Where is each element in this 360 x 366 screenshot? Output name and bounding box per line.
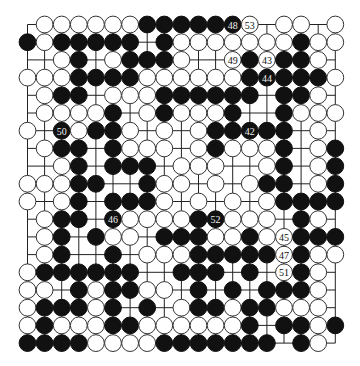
white-stone	[105, 16, 122, 33]
black-stone	[105, 105, 122, 122]
black-stone	[293, 229, 310, 246]
white-stone	[19, 282, 36, 299]
white-stone	[224, 317, 241, 334]
white-stone	[36, 16, 53, 33]
white-stone	[224, 211, 241, 228]
white-stone	[156, 211, 173, 228]
white-stone	[241, 211, 258, 228]
black-stone	[293, 282, 310, 299]
black-stone	[19, 335, 36, 352]
move-number: 52	[211, 214, 221, 225]
white-stone	[139, 246, 156, 263]
white-stone	[293, 105, 310, 122]
black-stone	[173, 87, 190, 104]
black-stone	[36, 335, 53, 352]
black-stone	[259, 335, 276, 352]
black-stone	[190, 16, 207, 33]
white-stone	[156, 317, 173, 334]
white-stone	[53, 16, 70, 33]
white-stone	[19, 175, 36, 192]
white-stone	[36, 211, 53, 228]
white-stone	[327, 16, 344, 33]
black-stone	[276, 140, 293, 157]
white-stone	[276, 299, 293, 316]
white-stone	[36, 34, 53, 51]
white-stone	[259, 34, 276, 51]
white-stone	[327, 105, 344, 122]
black-stone	[276, 87, 293, 104]
black-stone	[310, 229, 327, 246]
white-stone	[36, 282, 53, 299]
black-stone	[105, 122, 122, 139]
go-board[interactable]: 485349434450424652454751	[0, 0, 360, 366]
black-stone	[241, 229, 258, 246]
black-stone	[327, 175, 344, 192]
black-stone	[207, 299, 224, 316]
black-stone	[293, 264, 310, 281]
black-stone	[139, 52, 156, 69]
black-stone	[207, 264, 224, 281]
white-stone	[36, 175, 53, 192]
black-stone	[53, 87, 70, 104]
white-stone	[224, 299, 241, 316]
black-stone	[105, 193, 122, 210]
white-stone	[207, 158, 224, 175]
black-stone	[88, 69, 105, 86]
black-stone	[105, 246, 122, 263]
black-stone	[105, 264, 122, 281]
white-stone	[122, 229, 139, 246]
move-number: 45	[279, 232, 289, 243]
move-number: 53	[245, 20, 255, 31]
black-stone	[70, 158, 87, 175]
white-stone	[207, 34, 224, 51]
black-stone	[105, 282, 122, 299]
black-stone	[276, 158, 293, 175]
white-stone	[122, 16, 139, 33]
black-stone	[293, 211, 310, 228]
black-stone	[327, 140, 344, 157]
black-stone	[53, 229, 70, 246]
white-stone	[139, 317, 156, 334]
black-stone	[122, 193, 139, 210]
white-stone	[139, 105, 156, 122]
white-stone	[88, 317, 105, 334]
white-stone	[70, 105, 87, 122]
white-stone	[207, 69, 224, 86]
white-stone	[310, 317, 327, 334]
white-stone	[70, 122, 87, 139]
white-stone	[293, 299, 310, 316]
white-stone	[190, 34, 207, 51]
black-stone	[224, 87, 241, 104]
black-stone	[293, 246, 310, 263]
black-stone	[156, 87, 173, 104]
white-stone	[122, 140, 139, 157]
black-stone	[224, 246, 241, 263]
white-stone	[327, 69, 344, 86]
white-stone	[53, 193, 70, 210]
black-stone	[173, 229, 190, 246]
white-stone	[310, 282, 327, 299]
black-stone	[36, 317, 53, 334]
white-stone	[241, 175, 258, 192]
black-stone	[276, 193, 293, 210]
black-stone	[122, 158, 139, 175]
black-stone	[327, 317, 344, 334]
black-stone	[139, 158, 156, 175]
black-stone	[190, 264, 207, 281]
black-stone	[139, 299, 156, 316]
white-stone	[310, 175, 327, 192]
black-stone	[105, 34, 122, 51]
black-stone	[241, 69, 258, 86]
white-stone	[19, 69, 36, 86]
black-stone	[88, 264, 105, 281]
white-stone	[19, 193, 36, 210]
move-number: 51	[279, 267, 289, 278]
black-stone	[241, 87, 258, 104]
black-stone	[241, 246, 258, 263]
black-stone	[224, 105, 241, 122]
black-stone	[70, 335, 87, 352]
white-stone	[310, 299, 327, 316]
white-stone	[122, 122, 139, 139]
black-stone	[70, 34, 87, 51]
black-stone	[207, 16, 224, 33]
